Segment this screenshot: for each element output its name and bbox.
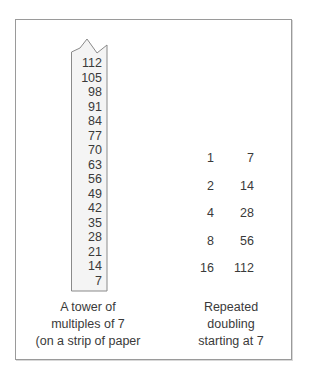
tower-value: 7 bbox=[74, 274, 102, 289]
tower-value: 63 bbox=[74, 158, 102, 173]
tower-value: 28 bbox=[74, 230, 102, 245]
tower-value: 49 bbox=[74, 187, 102, 202]
tower-value: 91 bbox=[74, 100, 102, 115]
doubling-row: 8 56 bbox=[196, 231, 254, 259]
doubling-table: 1 7 2 14 4 28 8 56 16 112 bbox=[196, 148, 254, 286]
tower-value: 98 bbox=[74, 85, 102, 100]
tower-of-multiples: 112 105 98 91 84 77 70 63 56 49 42 35 28… bbox=[74, 56, 102, 288]
tower-value: 14 bbox=[74, 259, 102, 274]
tower-caption-line: (on a strip of paper bbox=[32, 333, 144, 350]
doubling-value: 7 bbox=[214, 148, 254, 176]
tower-value: 42 bbox=[74, 201, 102, 216]
tower-value: 70 bbox=[74, 143, 102, 158]
tower-caption: A tower of multiples of 7 (on a strip of… bbox=[32, 299, 144, 350]
doubling-factor: 2 bbox=[196, 176, 214, 204]
doubling-value: 56 bbox=[214, 231, 254, 259]
doubling-value: 112 bbox=[214, 258, 254, 286]
tower-value: 35 bbox=[74, 216, 102, 231]
doubling-row: 1 7 bbox=[196, 148, 254, 176]
tower-value: 77 bbox=[74, 129, 102, 144]
tower-value: 84 bbox=[74, 114, 102, 129]
tower-caption-line: A tower of bbox=[32, 299, 144, 316]
tower-caption-line: multiples of 7 bbox=[32, 316, 144, 333]
tower-value: 21 bbox=[74, 245, 102, 260]
doubling-factor: 8 bbox=[196, 231, 214, 259]
doubling-caption-line: Repeated bbox=[186, 299, 276, 316]
doubling-factor: 1 bbox=[196, 148, 214, 176]
doubling-caption-line: doubling bbox=[186, 316, 276, 333]
doubling-row: 2 14 bbox=[196, 176, 254, 204]
tower-value: 112 bbox=[74, 56, 102, 71]
doubling-factor: 16 bbox=[196, 258, 214, 286]
doubling-value: 28 bbox=[214, 203, 254, 231]
doubling-row: 16 112 bbox=[196, 258, 254, 286]
tower-value: 56 bbox=[74, 172, 102, 187]
doubling-factor: 4 bbox=[196, 203, 214, 231]
doubling-caption: Repeated doubling starting at 7 bbox=[186, 299, 276, 350]
doubling-row: 4 28 bbox=[196, 203, 254, 231]
doubling-value: 14 bbox=[214, 176, 254, 204]
doubling-caption-line: starting at 7 bbox=[186, 333, 276, 350]
tower-value: 105 bbox=[74, 71, 102, 86]
